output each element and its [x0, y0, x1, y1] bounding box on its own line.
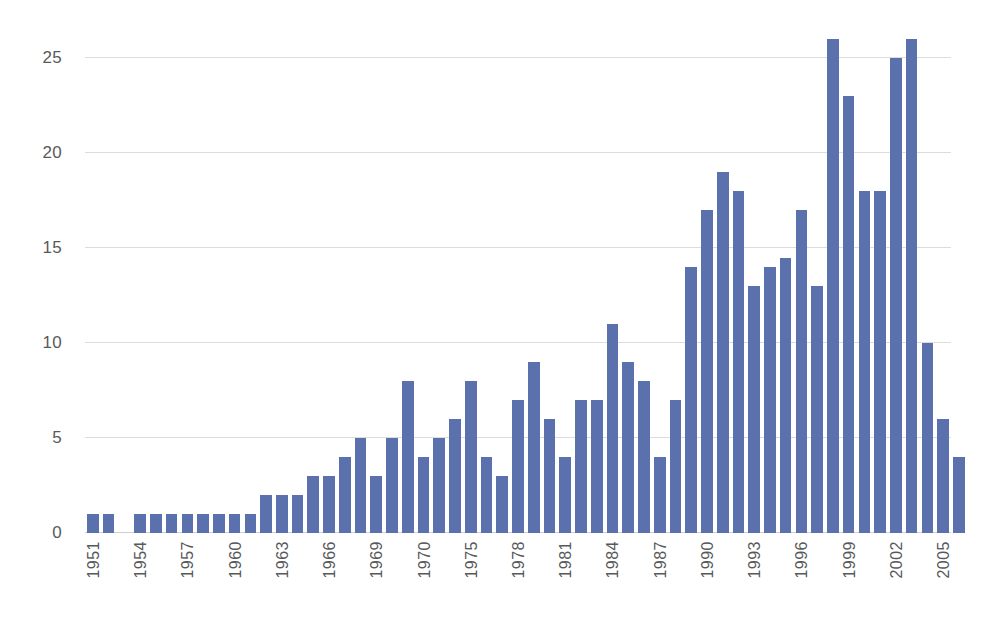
y-axis-tick-label: 0: [52, 523, 62, 543]
x-axis-tick-label: 1996: [793, 541, 811, 579]
bar: [355, 438, 367, 533]
x-axis-tick-label: 1993: [746, 541, 764, 579]
bar: [339, 457, 351, 533]
x-axis-tick-label: 1981: [557, 541, 575, 579]
bar: [922, 343, 934, 533]
x-axis-tick-label: 2002: [888, 541, 906, 579]
bar: [764, 267, 776, 533]
bar: [843, 96, 855, 533]
bar: [166, 514, 178, 533]
bar: [575, 400, 587, 533]
y-axis-tick-label: 20: [42, 143, 62, 163]
bar: [953, 457, 965, 533]
bar: [717, 172, 729, 533]
bar: [402, 381, 414, 533]
bar: [748, 286, 760, 533]
bar-chart: 0510152025 19511954195719601963196619691…: [0, 0, 991, 625]
x-axis-tick-label: 1987: [652, 541, 670, 579]
bar: [370, 476, 382, 533]
x-axis-tick-labels: 1951195419571960196319661969197019751978…: [85, 533, 951, 625]
y-axis-tick-label: 25: [42, 48, 62, 68]
x-axis-tick-label: 1978: [510, 541, 528, 579]
bar: [559, 457, 571, 533]
bar: [465, 381, 477, 533]
bar: [780, 258, 792, 534]
bar: [512, 400, 524, 533]
x-axis-tick-label: 1969: [368, 541, 386, 579]
bar: [796, 210, 808, 533]
bar: [386, 438, 398, 533]
y-axis-tick-label: 15: [42, 238, 62, 258]
bar: [150, 514, 162, 533]
bar: [685, 267, 697, 533]
x-axis-tick-label: 1951: [85, 541, 103, 579]
bar: [182, 514, 194, 533]
bar: [607, 324, 619, 533]
bar: [874, 191, 886, 533]
bar: [197, 514, 209, 533]
bar: [229, 514, 241, 533]
bar: [638, 381, 650, 533]
bar: [292, 495, 304, 533]
bar: [213, 514, 225, 533]
x-axis-tick-label: 1975: [463, 541, 481, 579]
bar: [276, 495, 288, 533]
x-axis-tick-label: 1954: [132, 541, 150, 579]
x-axis-tick-label: 1963: [274, 541, 292, 579]
x-axis-tick-label: 1957: [179, 541, 197, 579]
x-axis-tick-label: 2005: [935, 541, 953, 579]
bar: [418, 457, 430, 533]
bar: [654, 457, 666, 533]
bar: [890, 58, 902, 533]
y-axis-tick-labels: 0510152025: [0, 20, 85, 533]
bar: [906, 39, 918, 533]
y-axis-tick-label: 10: [42, 333, 62, 353]
bar: [481, 457, 493, 533]
bar: [528, 362, 540, 533]
bar: [496, 476, 508, 533]
bar: [544, 419, 556, 533]
bar: [433, 438, 445, 533]
x-axis-tick-label: 1970: [416, 541, 434, 579]
x-axis-tick-label: 1984: [604, 541, 622, 579]
bar: [591, 400, 603, 533]
plot-area: [85, 20, 951, 533]
bar: [827, 39, 839, 533]
bar: [670, 400, 682, 533]
x-axis-tick-label: 1990: [699, 541, 717, 579]
bar: [307, 476, 319, 533]
bar: [323, 476, 335, 533]
bar: [260, 495, 272, 533]
bar: [245, 514, 257, 533]
bar: [134, 514, 146, 533]
bar: [733, 191, 745, 533]
bar: [449, 419, 461, 533]
bar: [103, 514, 115, 533]
x-axis-tick-label: 1966: [321, 541, 339, 579]
bar: [701, 210, 713, 533]
bar: [622, 362, 634, 533]
bar: [937, 419, 949, 533]
bar: [811, 286, 823, 533]
x-axis-tick-label: 1960: [227, 541, 245, 579]
y-axis-tick-label: 5: [52, 428, 62, 448]
bar: [859, 191, 871, 533]
bar: [87, 514, 99, 533]
bar-series: [85, 20, 951, 533]
x-axis-tick-label: 1999: [841, 541, 859, 579]
